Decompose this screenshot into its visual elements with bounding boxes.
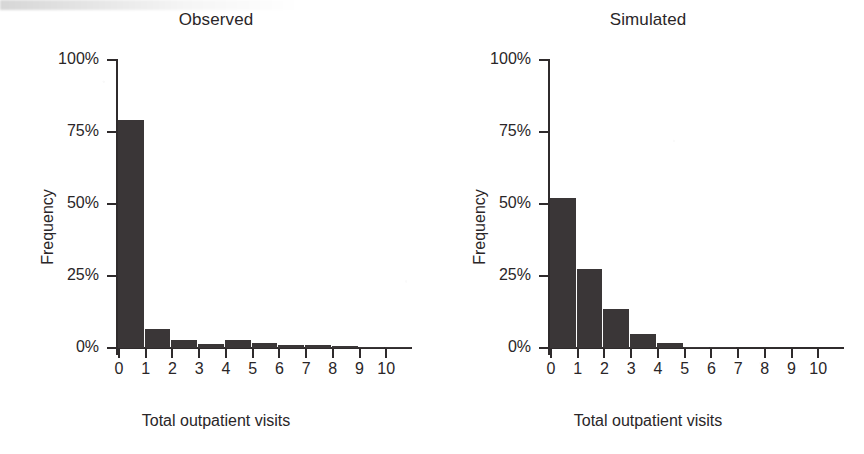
- x-tick-simulated-6: [710, 349, 712, 358]
- y-tick-simulated-4: [539, 59, 548, 61]
- x-tick-label-simulated-1: 1: [563, 360, 593, 378]
- bar-simulated-0: [550, 198, 576, 348]
- x-tick-label-simulated-0: 0: [536, 360, 566, 378]
- x-tick-observed-9: [359, 349, 361, 358]
- bar-simulated-2: [603, 309, 629, 348]
- bar-simulated-4: [657, 343, 683, 348]
- x-tick-simulated-3: [630, 349, 632, 358]
- plot-area-simulated: 0%25%50%75%100% 012345678910: [544, 55, 844, 355]
- x-tick-label-observed-10: 10: [371, 360, 401, 378]
- bar-observed-10: [385, 347, 411, 348]
- x-tick-label-observed-2: 2: [157, 360, 187, 378]
- x-tick-label-observed-6: 6: [264, 360, 294, 378]
- y-tick-observed-1: [107, 275, 116, 277]
- y-tick-label-simulated-2: 50%: [461, 195, 531, 211]
- x-tick-observed-6: [278, 349, 280, 358]
- bar-simulated-3: [630, 334, 656, 348]
- bar-simulated-1: [577, 269, 603, 348]
- y-tick-label-simulated-0: 0%: [461, 339, 531, 355]
- x-tick-label-observed-9: 9: [345, 360, 375, 378]
- plot-area-observed: 0%25%50%75%100% 012345678910: [112, 55, 412, 355]
- bar-observed-0: [118, 120, 144, 348]
- y-tick-label-observed-0: 0%: [29, 339, 99, 355]
- x-tick-observed-5: [252, 349, 254, 358]
- x-tick-observed-7: [305, 349, 307, 358]
- x-tick-simulated-2: [603, 349, 605, 358]
- y-tick-simulated-2: [539, 203, 548, 205]
- bar-observed-3: [198, 344, 224, 348]
- axis-label-x-observed: Total outpatient visits: [0, 412, 432, 430]
- x-tick-label-observed-3: 3: [184, 360, 214, 378]
- x-tick-label-simulated-5: 5: [670, 360, 700, 378]
- panel-title-observed: Observed: [0, 10, 432, 30]
- y-tick-label-simulated-4: 100%: [461, 51, 531, 67]
- x-tick-label-observed-5: 5: [238, 360, 268, 378]
- y-tick-observed-3: [107, 131, 116, 133]
- x-tick-simulated-0: [550, 349, 552, 358]
- x-tick-simulated-10: [817, 349, 819, 358]
- x-tick-label-observed-4: 4: [211, 360, 241, 378]
- x-tick-simulated-1: [577, 349, 579, 358]
- x-tick-label-observed-7: 7: [291, 360, 321, 378]
- bar-simulated-8: [764, 347, 790, 348]
- x-tick-simulated-5: [684, 349, 686, 358]
- x-tick-label-simulated-2: 2: [589, 360, 619, 378]
- x-tick-observed-1: [145, 349, 147, 358]
- bar-observed-7: [305, 345, 331, 348]
- x-tick-label-simulated-7: 7: [723, 360, 753, 378]
- bar-observed-6: [278, 345, 304, 348]
- bar-observed-1: [145, 329, 171, 348]
- x-tick-label-observed-0: 0: [104, 360, 134, 378]
- x-tick-label-observed-1: 1: [131, 360, 161, 378]
- x-tick-simulated-8: [764, 349, 766, 358]
- y-tick-label-observed-2: 50%: [29, 195, 99, 211]
- bar-observed-8: [332, 346, 358, 348]
- bar-observed-2: [171, 340, 197, 348]
- bar-observed-9: [359, 347, 385, 348]
- y-tick-label-observed-1: 25%: [29, 267, 99, 283]
- x-tick-label-simulated-3: 3: [616, 360, 646, 378]
- x-tick-label-observed-8: 8: [318, 360, 348, 378]
- y-tick-label-simulated-3: 75%: [461, 123, 531, 139]
- x-tick-observed-3: [198, 349, 200, 358]
- axis-label-x-simulated: Total outpatient visits: [432, 412, 864, 430]
- x-tick-observed-10: [385, 349, 387, 358]
- bar-observed-4: [225, 340, 251, 348]
- panel-observed: Observed Frequency 0%25%50%75%100% 01234…: [0, 0, 432, 454]
- bar-group-simulated: [550, 55, 844, 348]
- x-tick-observed-8: [332, 349, 334, 358]
- panel-title-simulated: Simulated: [432, 10, 864, 30]
- bar-group-observed: [118, 55, 412, 348]
- y-tick-observed-2: [107, 203, 116, 205]
- x-tick-label-simulated-4: 4: [643, 360, 673, 378]
- bar-simulated-6: [710, 347, 736, 348]
- y-tick-simulated-0: [539, 347, 548, 349]
- x-tick-observed-2: [171, 349, 173, 358]
- y-tick-label-observed-4: 100%: [29, 51, 99, 67]
- x-tick-label-simulated-6: 6: [696, 360, 726, 378]
- x-tick-label-simulated-8: 8: [750, 360, 780, 378]
- y-tick-simulated-3: [539, 131, 548, 133]
- x-tick-simulated-9: [791, 349, 793, 358]
- y-tick-label-observed-3: 75%: [29, 123, 99, 139]
- y-tick-simulated-1: [539, 275, 548, 277]
- bar-simulated-5: [684, 347, 710, 348]
- panel-simulated: Simulated Frequency 0%25%50%75%100% 0123…: [432, 0, 864, 454]
- x-tick-label-simulated-10: 10: [803, 360, 833, 378]
- x-tick-observed-4: [225, 349, 227, 358]
- bar-observed-5: [252, 343, 278, 348]
- figure-two-panel-histograms: Observed Frequency 0%25%50%75%100% 01234…: [0, 0, 864, 454]
- y-tick-label-simulated-1: 25%: [461, 267, 531, 283]
- x-tick-simulated-7: [737, 349, 739, 358]
- x-tick-observed-0: [118, 349, 120, 358]
- y-tick-observed-4: [107, 59, 116, 61]
- x-tick-simulated-4: [657, 349, 659, 358]
- x-tick-label-simulated-9: 9: [777, 360, 807, 378]
- y-tick-observed-0: [107, 347, 116, 349]
- bar-simulated-7: [737, 347, 763, 348]
